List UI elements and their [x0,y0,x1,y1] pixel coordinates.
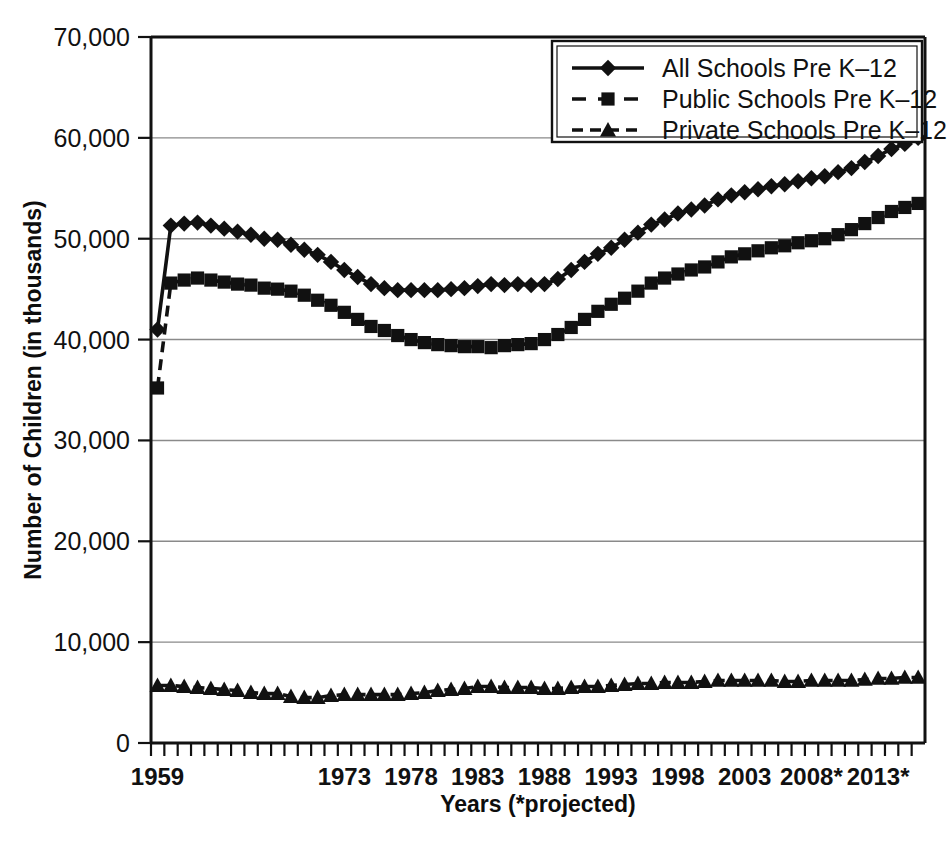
data-point-marker [645,276,658,289]
data-point-marker [284,285,297,298]
y-tick-label: 30,000 [54,426,130,454]
data-point-marker [658,271,671,284]
data-point-marker [671,267,684,280]
data-point-marker [618,292,631,305]
chart-legend[interactable]: All Schools Pre K–12Public Schools Pre K… [552,41,947,144]
x-tick-label: 2013* [847,763,910,790]
data-point-marker [551,328,564,341]
data-point-marker [605,298,618,311]
data-point-marker [778,239,791,252]
data-point-marker [338,306,351,319]
data-point-marker [178,273,191,286]
data-point-marker [364,320,377,333]
y-tick-label: 20,000 [54,527,130,555]
data-point-marker [164,276,177,289]
data-point-marker [818,232,831,245]
data-point-marker [311,294,324,307]
y-tick-label: 40,000 [54,326,130,354]
data-point-marker [725,250,738,263]
data-point-marker [418,336,431,349]
data-point-marker [498,339,511,352]
data-point-marker [885,205,898,218]
data-point-marker [685,263,698,276]
y-axis-ticks [138,37,151,743]
data-point-marker [391,329,404,342]
data-point-marker [324,299,337,312]
y-tick-label: 0 [116,729,130,757]
data-point-marker [151,381,164,394]
data-point-marker [458,340,471,353]
data-point-marker [578,313,591,326]
data-point-marker [538,333,551,346]
data-point-marker [591,305,604,318]
data-point-marker [204,273,217,286]
data-point-marker [218,275,231,288]
x-tick-label: 1993 [585,763,638,790]
data-point-marker [912,197,925,210]
scan-artifact-caption [150,826,610,844]
data-point-marker [831,228,844,241]
x-axis-title: Years (*projected) [440,791,636,817]
data-point-marker [525,337,538,350]
x-tick-label: 1978 [384,763,437,790]
x-tick-label: 2003 [718,763,771,790]
x-tick-label: 1983 [451,763,504,790]
data-point-marker [898,201,911,214]
data-point-marker [698,260,711,273]
legend-item-label: Private Schools Pre K–12 [662,116,947,144]
chart-figure: 70,00060,00050,00040,00030,00020,00010,0… [0,0,950,846]
data-point-marker [805,234,818,247]
svg-text:Number of Children (in thousan: Number of Children (in thousands) [20,200,46,580]
x-tick-label: 1959 [131,763,184,790]
data-point-marker [444,339,457,352]
y-axis-title: Number of Children (in thousands) [20,200,46,580]
data-point-marker [298,289,311,302]
data-point-marker [404,333,417,346]
data-point-marker [258,282,271,295]
data-point-marker [738,247,751,260]
data-point-marker [244,279,257,292]
data-point-marker [872,211,885,224]
legend-item-label: Public Schools Pre K–12 [662,85,937,113]
data-point-marker [858,217,871,230]
data-point-marker [351,313,364,326]
x-tick-label: 2008* [780,763,843,790]
x-tick-label: 1988 [518,763,571,790]
line-chart-canvas: 70,00060,00050,00040,00030,00020,00010,0… [0,0,950,846]
legend-marker-square-icon [601,92,614,105]
data-point-marker [565,321,578,334]
data-point-marker [711,255,724,268]
data-point-marker [751,244,764,257]
data-point-marker [631,285,644,298]
data-point-marker [845,223,858,236]
data-point-marker [231,278,244,291]
data-point-marker [378,324,391,337]
data-point-marker [471,340,484,353]
y-tick-label: 10,000 [54,628,130,656]
y-tick-label: 70,000 [54,23,130,51]
y-tick-label: 50,000 [54,225,130,253]
x-tick-label: 1973 [318,763,371,790]
legend-item-label: All Schools Pre K–12 [662,54,897,82]
svg-text:Years (*projected): Years (*projected) [440,791,636,817]
y-axis-tick-labels: 70,00060,00050,00040,00030,00020,00010,0… [54,23,130,757]
data-point-marker [271,283,284,296]
y-tick-label: 60,000 [54,124,130,152]
x-tick-label: 1998 [651,763,704,790]
data-point-marker [791,236,804,249]
data-point-marker [485,341,498,354]
x-axis-tick-labels: 195919731978198319881993199820032008*201… [131,763,910,790]
data-point-marker [191,271,204,284]
x-axis-ticks [151,743,912,756]
data-point-marker [765,241,778,254]
data-point-marker [431,338,444,351]
data-point-marker [511,338,524,351]
